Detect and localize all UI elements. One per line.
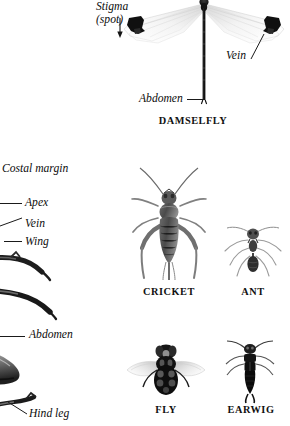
leg-specimen-lower <box>0 286 64 322</box>
label-apex: Apex <box>25 196 48 209</box>
label-hind-leg-text: Hind leg <box>29 407 69 420</box>
label-apex-text: Apex <box>25 196 48 209</box>
label-hind-leg: Hind leg <box>29 407 69 420</box>
label-costal-margin: Costal margin <box>2 162 68 175</box>
caption-ant: ANT <box>223 286 283 297</box>
wing-leader-line <box>4 241 22 242</box>
leg-specimen-upper <box>0 250 66 284</box>
fly-illustration <box>124 340 208 402</box>
abdomen-illustration <box>0 345 64 395</box>
caption-damselfly: DAMSELFLY <box>148 115 238 126</box>
label-costal-margin-text: Costal margin <box>2 162 68 175</box>
cricket-illustration <box>130 168 208 286</box>
caption-earwig: EARWIG <box>220 404 282 415</box>
abdomen-leader-line <box>187 99 204 100</box>
ant-figure <box>222 218 284 286</box>
earwig-illustration <box>219 338 281 404</box>
label-abdomen-damselfly-text: Abdomen <box>139 92 183 105</box>
leg-illustration-upper <box>0 250 66 284</box>
label-stigma-line-1: Stigma <box>96 1 128 14</box>
label-wing: Wing <box>25 235 49 248</box>
label-vein-right: Vein <box>226 49 246 62</box>
cricket-figure <box>130 168 208 286</box>
label-vein-right-text: Vein <box>226 49 246 62</box>
body-text-line-2: eir life-cycle. <box>0 16 90 32</box>
fly-figure <box>124 340 208 402</box>
label-abdomen-damselfly: Abdomen <box>139 92 183 105</box>
hind-leg-leader-line <box>5 400 29 416</box>
body-text-line-3: , then to a <box>0 33 90 49</box>
abdomen-specimen <box>0 345 64 395</box>
label-abdomen-left: Abdomen <box>29 328 73 341</box>
vein-leader-line <box>250 33 268 61</box>
body-text-column: s and moths, eir life-cycle. , then to a <box>0 0 90 49</box>
apex-leader-line <box>0 203 22 204</box>
stigma-leader-arrow <box>117 17 133 39</box>
label-vein-left-text: Vein <box>25 217 45 230</box>
earwig-figure <box>219 338 281 404</box>
forewing-illustration <box>0 92 48 162</box>
vein-left-leader-line <box>0 216 24 228</box>
wing-detail-specimen-top <box>0 92 48 162</box>
abdomen-left-leader-line <box>0 336 25 337</box>
label-wing-text: Wing <box>25 235 49 248</box>
reference-page: s and moths, eir life-cycle. , then to a <box>0 0 290 426</box>
caption-fly: FLY <box>126 404 206 415</box>
caption-cricket: CRICKET <box>129 286 209 297</box>
label-vein-left: Vein <box>25 217 45 230</box>
leg-illustration-lower <box>0 286 64 322</box>
ant-illustration <box>222 218 284 286</box>
body-text-line-1: s and moths, <box>0 0 90 16</box>
label-abdomen-left-text: Abdomen <box>29 328 73 341</box>
